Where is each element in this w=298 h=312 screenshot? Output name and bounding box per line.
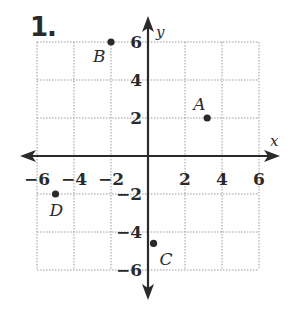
- coordinate-plane: xy−6−4−2246642−2−4−6ABCD: [0, 0, 298, 312]
- x-tick-label: 4: [216, 169, 228, 189]
- point-d: [52, 190, 59, 197]
- y-tick-label: 6: [130, 32, 142, 52]
- point-a: [204, 114, 211, 121]
- y-tick-label: −4: [116, 222, 142, 242]
- point-c: [150, 240, 157, 247]
- x-axis-label: x: [270, 132, 279, 150]
- point-label-d: D: [49, 200, 64, 220]
- y-tick-label: −2: [116, 184, 142, 204]
- point-label-c: C: [160, 249, 173, 269]
- y-tick-label: 2: [130, 108, 142, 128]
- point-b: [107, 38, 114, 45]
- point-label-a: A: [191, 94, 205, 114]
- point-label-b: B: [92, 46, 106, 66]
- y-tick-label: −6: [116, 260, 142, 280]
- x-tick-label: 2: [179, 169, 191, 189]
- y-tick-label: 4: [130, 70, 142, 90]
- x-tick-label: 6: [253, 169, 265, 189]
- y-axis-label: y: [155, 23, 165, 41]
- x-tick-label: −6: [24, 169, 50, 189]
- x-tick-label: −4: [61, 169, 87, 189]
